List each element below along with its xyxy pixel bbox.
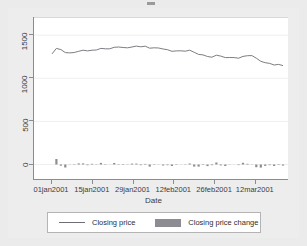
x-tick-label: 12mar2001: [236, 185, 274, 194]
x-tick-label: 12feb2001: [156, 185, 191, 194]
y-tick-label: 500: [21, 119, 30, 132]
x-tick-mark: [133, 180, 134, 184]
y-tick-mark: [29, 77, 33, 78]
legend-label-closing-price: Closing price: [92, 218, 135, 227]
x-tick-mark: [214, 180, 215, 184]
bar-swatch-icon: [155, 219, 181, 227]
y-tick-label: 0: [21, 162, 30, 166]
legend-item-closing-price-change[interactable]: Closing price change: [155, 218, 258, 227]
x-tick-label: 15jan2001: [74, 185, 109, 194]
chart-figure: 050010001500 01jan200115jan200129jan2001…: [0, 0, 307, 246]
y-tick-mark: [29, 34, 33, 35]
title-clipped-marker: [147, 2, 155, 5]
plot-svg: [34, 18, 288, 179]
y-axis-line: [33, 17, 34, 179]
x-tick-label: 29jan2001: [115, 185, 150, 194]
plot-area: [33, 17, 288, 179]
x-tick-label: 01jan2001: [33, 185, 68, 194]
x-axis-title: Date: [0, 196, 307, 205]
legend-item-closing-price[interactable]: Closing price: [59, 218, 135, 227]
x-tick-mark: [173, 180, 174, 184]
legend-label-closing-price-change: Closing price change: [188, 218, 258, 227]
x-tick-mark: [92, 180, 93, 184]
line-swatch-icon: [59, 222, 85, 223]
x-tick-mark: [51, 180, 52, 184]
y-tick-label: 1000: [21, 76, 30, 94]
x-axis-line: [33, 179, 288, 180]
x-tick-mark: [255, 180, 256, 184]
chart-legend: Closing price Closing price change: [47, 212, 261, 233]
y-tick-label: 1500: [21, 33, 30, 51]
x-tick-label: 26feb2001: [196, 185, 231, 194]
